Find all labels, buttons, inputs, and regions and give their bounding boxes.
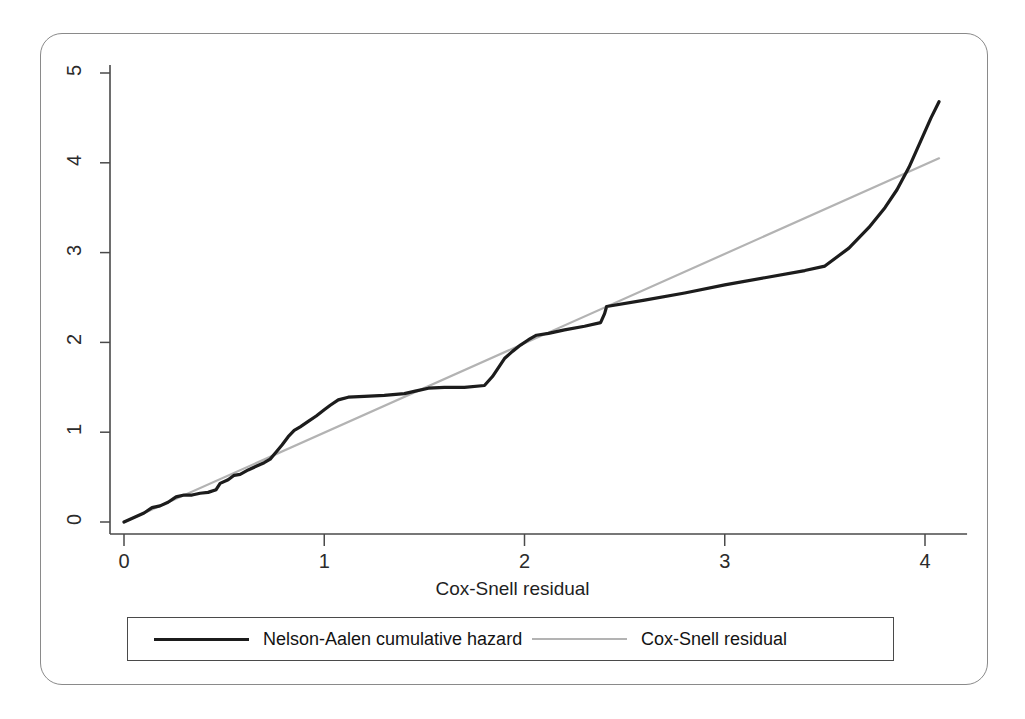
y-tick-label-3: 3 — [63, 230, 86, 270]
x-tick-label-1: 1 — [302, 550, 346, 573]
legend-entry-nelson-aalen: Nelson-Aalen cumulative hazard — [154, 618, 522, 660]
legend-key-line-cox-snell — [532, 638, 627, 640]
y-tick-label-1: 1 — [63, 410, 86, 450]
legend-label-nelson-aalen: Nelson-Aalen cumulative hazard — [263, 629, 522, 650]
y-tick-label-5: 5 — [63, 51, 86, 91]
figure-page: 012345 01234 Cox-Snell residual Nelson-A… — [0, 0, 1025, 719]
legend-key-line-nelson-aalen — [154, 638, 249, 641]
y-tick-label-2: 2 — [63, 320, 86, 360]
x-tick-label-0: 0 — [102, 550, 146, 573]
x-axis-title: Cox-Snell residual — [0, 578, 1025, 600]
chart-legend: Nelson-Aalen cumulative hazard Cox-Snell… — [127, 617, 894, 661]
x-tick-label-2: 2 — [503, 550, 547, 573]
x-tick-label-4: 4 — [903, 550, 947, 573]
x-tick-label-3: 3 — [703, 550, 747, 573]
legend-entry-cox-snell: Cox-Snell residual — [532, 618, 787, 660]
y-tick-label-4: 4 — [63, 140, 86, 180]
legend-label-cox-snell: Cox-Snell residual — [641, 629, 787, 650]
y-tick-label-0: 0 — [63, 500, 86, 540]
